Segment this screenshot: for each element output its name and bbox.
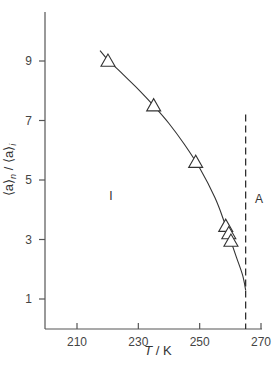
y-tick-label: 7	[25, 114, 32, 128]
x-tick-label: 250	[190, 335, 210, 349]
region-label-i: I	[109, 189, 112, 203]
fit-curve	[100, 51, 246, 290]
triangle-marker-icon	[189, 155, 203, 167]
triangle-marker-icon	[101, 54, 115, 66]
chart: 13579 210230250270 T / K ⟨a⟩n / ⟨a⟩i I A	[0, 0, 275, 366]
region-label-a: A	[255, 192, 263, 206]
axes	[45, 12, 262, 329]
x-axis-title: T / K	[144, 343, 172, 358]
y-ticks: 13579	[25, 54, 45, 306]
y-axis-title: ⟨a⟩n / ⟨a⟩i	[1, 143, 18, 196]
plot-area	[100, 51, 246, 329]
y-tick-label: 5	[25, 173, 32, 187]
y-tick-label: 1	[25, 292, 32, 306]
y-tick-label: 9	[25, 54, 32, 68]
x-tick-label: 270	[251, 335, 271, 349]
x-tick-label: 210	[67, 335, 87, 349]
y-tick-label: 3	[25, 233, 32, 247]
